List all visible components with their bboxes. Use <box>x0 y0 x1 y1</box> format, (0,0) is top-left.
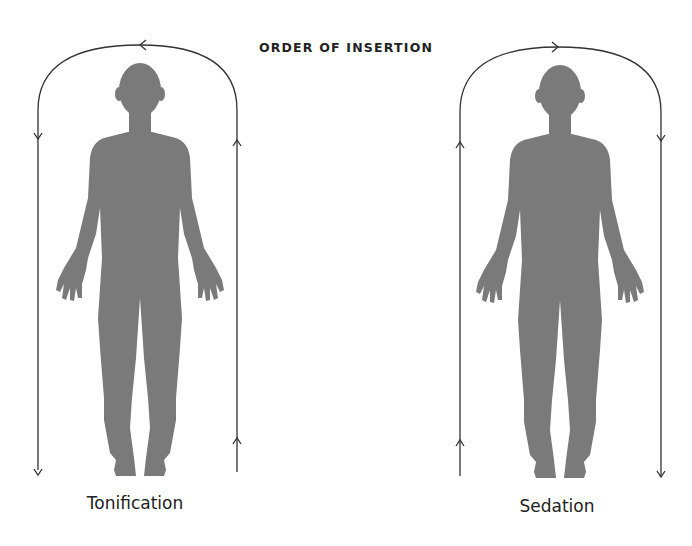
diagram-canvas <box>0 0 692 546</box>
tonification-panel <box>34 40 241 476</box>
sedation-label: Sedation <box>457 496 657 516</box>
human-silhouette-left <box>56 63 224 476</box>
tonification-label: Tonification <box>35 493 235 513</box>
order-of-insertion-diagram: ORDER OF INSERTION <box>0 0 692 546</box>
human-silhouette-right <box>476 65 644 478</box>
sedation-panel <box>456 42 665 478</box>
